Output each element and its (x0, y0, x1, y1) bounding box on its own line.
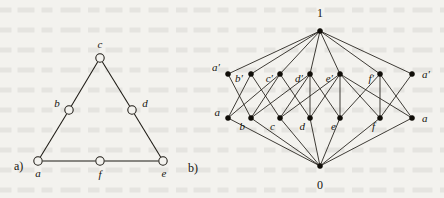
lattice-node-coatom-ap_l (226, 72, 231, 77)
lattice-node-atom-a_r (410, 116, 415, 121)
lattice-node-atom-d (308, 116, 313, 121)
lattice-node-atom-e (338, 116, 343, 121)
panel-b-tag: b) (188, 161, 198, 175)
lattice-edges (229, 32, 411, 165)
lattice-node-coatom-ap_r (410, 72, 415, 77)
lattice-node-atom-label-f: f (372, 120, 377, 132)
lattice-node-bottom-label-zero: 0 (317, 178, 323, 192)
lattice-node-atom-label-e: e (331, 120, 336, 132)
lattice-edge-top (230, 32, 318, 73)
lattice-edge-bottom (253, 119, 318, 164)
graph-edge (102, 62, 129, 106)
lattice-node-coatom-bp (249, 72, 254, 77)
graph-vertex-f (96, 157, 104, 165)
graph-vertex-b (65, 106, 73, 114)
lattice-node-top-one (318, 29, 323, 34)
graph-vertex-label-e: e (162, 167, 167, 179)
lattice-node-coatom-label-cp: c′ (266, 72, 274, 84)
lattice-nodes (226, 29, 415, 169)
lattice-node-atom-label-a_r: a (422, 112, 428, 124)
lattice-node-atom-label-a_l: a (215, 106, 221, 118)
lattice-edge-top (253, 32, 318, 73)
lattice-node-atom-c (278, 116, 283, 121)
graph-edge (40, 114, 66, 157)
lattice-edge-top (310, 33, 319, 72)
graph-vertex-e (159, 157, 167, 165)
lattice-node-atom-label-c: c (270, 120, 275, 132)
lattice-node-coatom-fp (378, 72, 383, 77)
graph-vertex-label-c: c (98, 38, 103, 50)
graph-edges (40, 62, 160, 161)
lattice-node-coatom-label-dp: d′ (295, 72, 304, 84)
lattice-node-coatom-ep (338, 72, 343, 77)
lattice-node-coatom-cp (278, 72, 283, 77)
lattice-node-atom-label-d: d (300, 120, 306, 132)
lattice-node-coatom-label-ap_l: a′ (212, 61, 221, 73)
graph-vertices (34, 54, 167, 165)
graph-vertex-d (128, 106, 136, 114)
graph-vertex-label-a: a (35, 167, 41, 179)
lattice-node-top-label-one: 1 (317, 6, 323, 20)
graph-edge (134, 114, 160, 157)
lattice-edge-middle (342, 75, 410, 117)
graph-vertex-label-f: f (98, 168, 103, 180)
lattice-node-atom-f (378, 116, 383, 121)
lattice-node-coatom-dp (308, 72, 313, 77)
lattice-node-atom-a_l (226, 116, 231, 121)
panel-b-lattice: 10a′b′c′d′e′f′a′abcdefa b) (188, 6, 431, 192)
figure-container: cbdafe a) 10a′b′c′d′e′f′a′abcdefa b) (0, 0, 444, 198)
lattice-edge-bottom (310, 120, 319, 164)
panel-a-graph: cbdafe a) (14, 38, 167, 180)
lattice-node-bottom-zero (318, 164, 323, 169)
lattice-node-coatom-label-ap_r: a′ (422, 68, 431, 80)
lattice-node-coatom-label-fp: f′ (369, 72, 375, 84)
graph-vertex-c (96, 54, 104, 62)
graph-vertex-label-b: b (54, 97, 60, 109)
graph-vertex-label-d: d (142, 97, 148, 109)
lattice-node-coatom-label-bp: b′ (235, 72, 244, 84)
figure-svg: cbdafe a) 10a′b′c′d′e′f′a′abcdefa b) (0, 0, 444, 198)
lattice-edge-top (322, 32, 410, 73)
graph-edge (71, 62, 97, 106)
lattice-edge-top (281, 33, 318, 73)
graph-vertex-a (34, 157, 42, 165)
lattice-node-atom-label-b: b (240, 120, 246, 132)
lattice-node-coatom-label-ep: e′ (326, 72, 334, 84)
lattice-node-atom-b (249, 116, 254, 121)
panel-a-tag: a) (14, 159, 23, 173)
